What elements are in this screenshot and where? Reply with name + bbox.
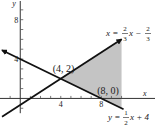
eq0-mid: x − [128, 28, 141, 38]
x-tick-label-4: 4 [59, 100, 63, 109]
y-tick-label-8: 8 [14, 16, 18, 25]
x-axis-label: x [142, 89, 147, 98]
eq0-den2: 3 [146, 35, 150, 43]
eq0-lhs: x = [105, 28, 118, 38]
x-tick-label-8: 8 [99, 100, 103, 109]
eq0-den1: 3 [123, 35, 127, 43]
eq1-mid: x + 4 [129, 112, 150, 122]
eq0-num1: 2 [123, 25, 127, 33]
y-tick-label-4: 4 [14, 55, 18, 64]
y-axis-label: y [11, 0, 16, 8]
eq1-den1: 2 [124, 119, 128, 125]
eq1-num1: 1 [124, 109, 128, 117]
equation-label-line-0: x = 2 3 x − 2 3 [105, 25, 151, 43]
eq0-num2: 2 [146, 25, 150, 33]
annotation-point-4-2: (4, 2) [53, 63, 75, 75]
chart-canvas: 4 8 4 8 x y (4, 2) (8, 0) x = 2 3 x − 2 … [0, 0, 157, 125]
annotation-point-8-0: (8, 0) [97, 85, 119, 97]
equation-label-line-1: y = 1 2 x + 4 [107, 109, 150, 125]
eq1-lhs: y = [107, 112, 120, 122]
